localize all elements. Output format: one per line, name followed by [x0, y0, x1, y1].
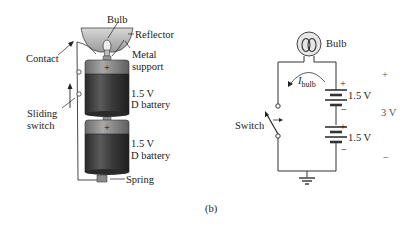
label-battery-bottom-voltage-schematic: 1.5 V [348, 132, 371, 143]
label-switch: Switch [235, 120, 264, 131]
label-bulb-schematic: Bulb [326, 38, 346, 49]
label-spring: Spring [126, 174, 154, 185]
label-sliding-switch-2: switch [27, 120, 54, 131]
label-battery-top-type: D battery [131, 99, 170, 110]
label-total-voltage: 3 V [381, 107, 396, 118]
label-battery-bottom-voltage: 1.5 V [131, 138, 154, 149]
label-contact: Contact [26, 53, 59, 64]
bulb-symbol [297, 32, 321, 56]
switch-blade [266, 113, 278, 134]
battery-bottom-minus-sign: − [341, 144, 347, 155]
total-plus-sign: + [382, 69, 388, 80]
sliding-switch-ring-top [77, 70, 81, 74]
label-current: Ibulb [298, 75, 316, 90]
sliding-switch-ring-bottom [77, 92, 81, 96]
label-battery-top-voltage: 1.5 V [131, 88, 154, 99]
current-subscript: bulb [302, 80, 316, 89]
spring [97, 175, 107, 182]
label-metal-support-2: support [132, 61, 164, 72]
switch-terminal-bottom [276, 134, 280, 138]
battery-bottom-plus-sign: + [340, 121, 346, 132]
figure-caption: (b) [205, 203, 217, 214]
switch-terminal-top [276, 104, 280, 108]
battery-bottom-plus: + [104, 122, 110, 133]
battery-top-minus-sign: − [341, 104, 347, 115]
arrow-up-icon [68, 83, 73, 108]
label-reflector: Reflector [135, 29, 174, 40]
flashlight-illustration [0, 0, 416, 228]
battery-top-plus-sign: + [340, 78, 346, 89]
bulb-icon [103, 40, 111, 56]
label-sliding-switch-1: Sliding [27, 108, 57, 119]
battery-top-plus: + [104, 62, 110, 73]
label-battery-bottom-type: D battery [131, 150, 170, 161]
label-bulb-left: Bulb [107, 14, 127, 25]
total-minus-sign: − [383, 152, 389, 163]
circuit-schematic [265, 32, 347, 184]
label-battery-top-voltage-schematic: 1.5 V [348, 90, 371, 101]
label-metal-support-1: Metal [132, 49, 157, 60]
